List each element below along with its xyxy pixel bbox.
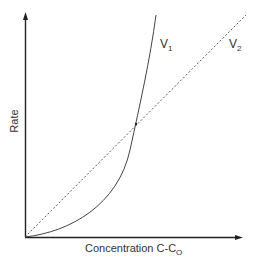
x-axis-label: Concentration C-CO: [85, 242, 182, 257]
x-axis-arrow-icon: [235, 235, 243, 240]
v1-label: V1: [160, 37, 173, 53]
intersection-point: [135, 123, 137, 125]
v2-label: V2: [229, 37, 242, 53]
rate-vs-concentration-chart: V1 V2 Rate Concentration C-CO: [0, 0, 257, 265]
x-axis: [25, 235, 243, 240]
y-axis-label: Rate: [8, 109, 20, 132]
v1-curve: [25, 15, 156, 237]
y-axis: [23, 12, 28, 237]
y-axis-arrow-icon: [23, 12, 28, 20]
